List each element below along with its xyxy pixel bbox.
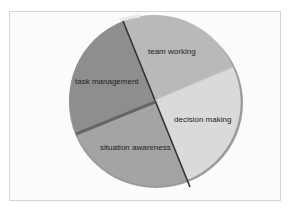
- label-decision-making: decision making: [174, 115, 231, 124]
- label-task-management: task management: [75, 77, 139, 86]
- label-team-working: team working: [148, 47, 196, 56]
- label-situation-awareness: situation awareness: [100, 143, 171, 152]
- pie-chart: team working decision making situation a…: [0, 0, 291, 214]
